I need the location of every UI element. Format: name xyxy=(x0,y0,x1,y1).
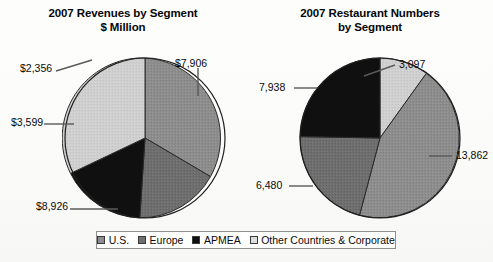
pie-label-restaurants-us: 13,862 xyxy=(456,149,488,161)
legend-item-europe: Europe xyxy=(138,234,183,246)
legend-item-other: Other Countries & Corporate xyxy=(250,234,395,246)
pie-label-revenues-apmea: $3,599 xyxy=(11,116,43,128)
legend-label-europe: Europe xyxy=(150,234,184,246)
chart-panel-revenues: 2007 Revenues by Segment $ Million xyxy=(0,0,246,232)
chart-legend: U.S. Europe APMEA Other Countries & Corp… xyxy=(96,231,396,249)
legend-swatch-europe-icon xyxy=(138,236,146,244)
legend-label-apmea: APMEA xyxy=(204,234,241,246)
leader-lines-restaurants xyxy=(247,0,493,232)
legend-label-us: U.S. xyxy=(109,234,129,246)
legend-swatch-us-icon xyxy=(97,236,105,244)
pie-label-restaurants-apmea: 7,938 xyxy=(259,81,285,93)
two-pie-figure: 2007 Revenues by Segment $ Million xyxy=(0,0,493,262)
pie-label-revenues-us: $7,906 xyxy=(175,57,207,69)
legend-item-apmea: APMEA xyxy=(192,234,240,246)
legend-swatch-other-icon xyxy=(250,236,258,244)
legend-item-us: U.S. xyxy=(97,234,129,246)
pie-label-restaurants-other: 3,097 xyxy=(399,58,425,70)
chart-panel-restaurants: 2007 Restaurant Numbers by Segment xyxy=(247,0,493,232)
legend-label-other: Other Countries & Corporate xyxy=(261,234,395,246)
legend-swatch-apmea-icon xyxy=(192,236,200,244)
pie-label-restaurants-europe: 6,480 xyxy=(256,179,282,191)
pie-label-revenues-europe: $8,926 xyxy=(36,200,68,212)
pie-label-revenues-other: $2,356 xyxy=(20,62,52,74)
